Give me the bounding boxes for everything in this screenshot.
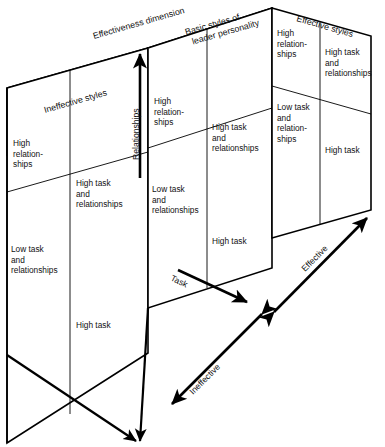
diagram-canvas: High relation- ships High task and relat… [0, 0, 385, 447]
plane-basic-styles[interactable]: High relation- ships High task and relat… [148, 7, 272, 308]
leadership-3d-diagram: High relation- ships High task and relat… [0, 0, 385, 447]
cell-basic-bottom-right: High task [212, 236, 247, 246]
plane-effective-styles[interactable]: High relation- ships High task and relat… [272, 8, 372, 238]
effective-label: Effective [299, 243, 329, 273]
axis-ineffective: Ineffective [172, 314, 262, 404]
cell-ineffective-bottom-right: High task [76, 320, 111, 330]
cell-effective-bottom-right: High task [325, 145, 360, 155]
plane-basic-face [148, 8, 272, 308]
effectiveness-dimension-label: Effectiveness dimension [92, 5, 186, 41]
ineffective-label: Ineffective [187, 362, 222, 397]
plane-ineffective-styles[interactable]: High relation- ships High task and relat… [7, 48, 148, 443]
ineffective-arrow [172, 314, 262, 404]
relationships-label: Relationships [131, 108, 141, 160]
